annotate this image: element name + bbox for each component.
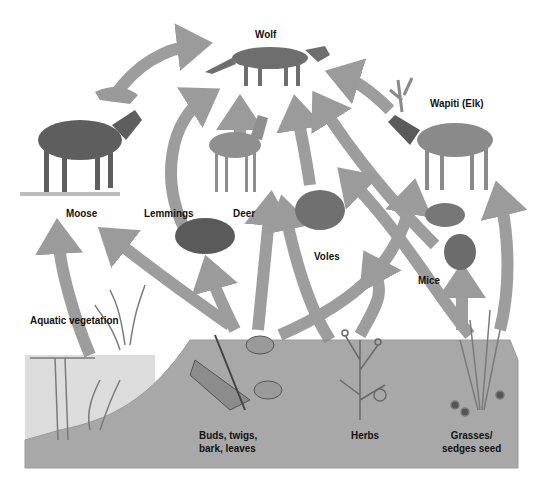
arrow-voles-to-wolf: [297, 112, 310, 185]
wapiti-illustration: [388, 78, 493, 190]
diagram-graphics: [0, 0, 539, 484]
arrow-aquatic-to-moose: [58, 236, 90, 355]
label-buds: Buds, twigs, bark, leaves: [199, 429, 257, 455]
arrow-wapiti-to-wolf: [342, 76, 390, 110]
arrow-grasses-to-wapiti: [500, 198, 508, 330]
label-voles: Voles: [314, 250, 340, 263]
label-grasses-line2: sedges seed: [442, 442, 501, 455]
label-wolf: Wolf: [255, 28, 276, 41]
arrow-moose-to-wolf: [115, 45, 195, 95]
arrow-buds-to-deer: [258, 208, 270, 330]
wolf-illustration: [205, 46, 330, 86]
label-moose: Moose: [66, 207, 97, 220]
lemming-illustration: [175, 218, 235, 254]
label-aquatic-vegetation: Aquatic vegetation: [30, 314, 118, 327]
mouse-illustration-top: [425, 203, 465, 227]
label-buds-line2: bark, leaves: [199, 442, 257, 455]
label-wapiti: Wapiti (Elk): [430, 97, 483, 110]
label-grasses: Grasses/ sedges seed: [442, 429, 501, 455]
label-herbs: Herbs: [351, 429, 379, 442]
label-grasses-line1: Grasses/: [442, 429, 501, 442]
arrow-mice-to-wolf: [322, 106, 435, 245]
label-buds-line1: Buds, twigs,: [199, 429, 257, 442]
moose-illustration: [20, 87, 142, 196]
label-mice: Mice: [418, 274, 440, 287]
vole-illustration: [295, 190, 345, 230]
mouse-illustration-bottom: [444, 234, 476, 270]
label-lemmings: Lemmings: [144, 207, 193, 220]
food-web-diagram: Wolf Wapiti (Elk) Moose Lemmings Deer Vo…: [0, 0, 539, 484]
label-deer: Deer: [233, 207, 255, 220]
